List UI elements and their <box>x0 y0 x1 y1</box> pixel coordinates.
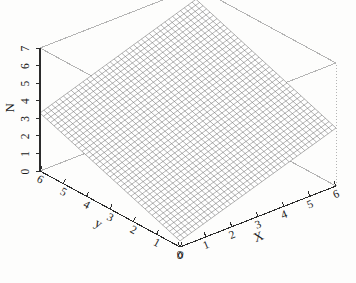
y-tick-label-2: 2 <box>128 223 139 236</box>
x-tick-label-2: 2 <box>227 228 237 241</box>
y-axis-title: y <box>92 215 105 232</box>
z-tick-label-1: 1 <box>19 151 31 157</box>
x-tick-label-1: 1 <box>201 238 211 251</box>
x-tick-label-4: 4 <box>279 207 289 220</box>
y-tick-label-5: 5 <box>58 185 69 198</box>
z-tick-label-4: 4 <box>19 98 31 104</box>
plot-canvas: 0123456X0123456y01234567N <box>0 0 356 283</box>
x-axis-title: X <box>251 227 266 245</box>
z-tick-label-2: 2 <box>19 133 31 139</box>
y-tick-label-4: 4 <box>82 198 93 211</box>
y-tick-label-6: 6 <box>35 172 46 185</box>
z-tick-label-5: 5 <box>19 81 31 87</box>
y-tick-label-1: 1 <box>152 236 163 249</box>
z-tick-label-3: 3 <box>19 116 31 122</box>
surface-plot-figure: 0123456X0123456y01234567N <box>0 0 356 283</box>
x-tick-label-6: 6 <box>331 187 341 200</box>
y-tick-label-3: 3 <box>105 210 116 223</box>
z-tick-label-7: 7 <box>19 45 31 51</box>
z-tick-label-0: 0 <box>19 168 31 174</box>
z-tick-label-6: 6 <box>19 63 31 69</box>
x-tick-label-5: 5 <box>305 197 315 210</box>
z-axis-title: N <box>2 102 17 112</box>
